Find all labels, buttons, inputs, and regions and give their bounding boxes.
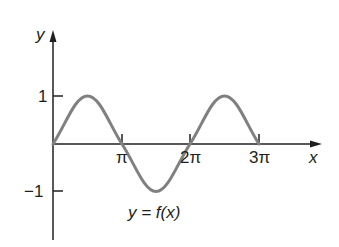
x-tick-label-3pi: 3π (249, 148, 270, 167)
y-axis-arrow-icon (50, 30, 57, 42)
x-tick-label-2pi: 2π (180, 148, 201, 167)
sine-graph: y x 1 −1 π 2π 3π y = f(x) (0, 0, 339, 247)
y-tick-label-neg1: −1 (24, 182, 43, 201)
x-axis-label: x (308, 148, 318, 167)
x-tick-label-pi: π (116, 148, 128, 167)
y-tick-label-1: 1 (38, 87, 47, 106)
curve-label: y = f(x) (127, 203, 180, 222)
y-axis-label: y (35, 25, 46, 44)
x-axis-arrow-icon (310, 141, 322, 148)
